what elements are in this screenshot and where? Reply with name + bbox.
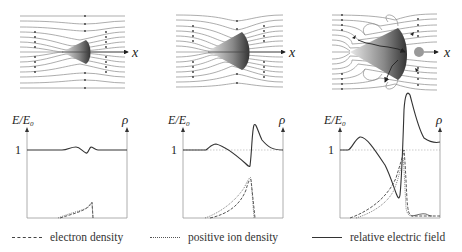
electron-density-curve <box>350 150 440 218</box>
figure-canvas: x x <box>0 0 462 252</box>
secondary-ionization-blob <box>414 47 424 57</box>
rho-label: ρ <box>435 112 442 127</box>
rho-label: ρ <box>278 112 285 127</box>
y-axis-label: E/E0 <box>167 113 190 128</box>
electric-field-curve <box>183 124 283 166</box>
y-axis-label: E/E0 <box>11 113 34 128</box>
solid-line-swatch <box>312 237 342 238</box>
rho-axis-arrowhead <box>438 127 442 132</box>
ion-density-curve <box>58 203 93 218</box>
electron-density-curve <box>210 179 255 218</box>
plot-panel-3: E/E0 ρ 1 <box>323 93 442 218</box>
plot-panel-2: E/E0 ρ 1 <box>167 112 285 218</box>
y-axis-arrowhead <box>181 127 185 132</box>
legend-label: relative electric field <box>350 231 445 243</box>
electric-field-curve <box>27 147 127 153</box>
field-map-panel-1: x <box>20 15 139 89</box>
legend-electron-density: electron density <box>12 228 123 246</box>
x-axis-label: x <box>443 45 451 60</box>
x-axis-label: x <box>288 45 296 60</box>
legend-relative-electric-field: relative electric field <box>312 228 445 246</box>
dashed-line-swatch <box>12 237 42 238</box>
rho-axis-arrowhead <box>281 127 285 132</box>
dotted-line-swatch <box>150 237 180 238</box>
streamer-head <box>350 28 407 80</box>
ion-density-curve <box>205 177 254 218</box>
y-axis-label: E/E0 <box>323 113 346 128</box>
electron-density-curve <box>60 202 93 218</box>
field-map-panel-2: x <box>176 15 296 87</box>
tick-one: 1 <box>171 143 177 157</box>
ion-density-curve <box>356 158 412 218</box>
plot-panel-1: E/E0 ρ 1 <box>11 112 129 218</box>
tick-one: 1 <box>328 143 334 157</box>
legend-positive-ion-density: positive ion density <box>150 228 278 246</box>
rho-axis-arrowhead <box>125 127 129 132</box>
electric-field-curve <box>340 93 440 198</box>
y-axis-arrowhead <box>25 127 29 132</box>
legend-label: electron density <box>50 231 123 243</box>
streamer-head <box>208 32 250 70</box>
field-map-panel-3: x <box>332 14 451 90</box>
tick-one: 1 <box>15 143 21 157</box>
rho-label: ρ <box>121 112 128 127</box>
legend-label: positive ion density <box>188 231 278 243</box>
x-axis-label: x <box>131 45 139 60</box>
